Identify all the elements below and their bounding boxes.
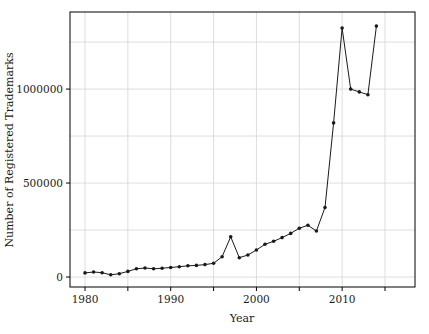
data-point [340,26,344,30]
data-point [160,266,164,270]
data-point [272,240,276,244]
data-point [152,267,156,271]
x-tick-label: 1990 [157,293,184,305]
y-tick-label: 500000 [23,177,63,189]
data-point [92,270,96,274]
data-point [100,271,104,275]
trademark-series [83,24,378,276]
data-point [246,253,250,257]
y-axis-label: Number of Registered Trademarks [3,52,16,247]
x-tick-label: 2010 [329,293,356,305]
data-point [315,229,319,233]
data-point [220,255,224,259]
data-point [169,266,173,270]
x-tick-label: 1980 [72,293,99,305]
data-point [212,262,216,266]
plot-frame [70,12,415,287]
data-point [306,224,310,228]
data-point [229,235,233,239]
x-axis-label: Year [229,312,255,325]
x-tick-label: 2000 [243,293,270,305]
data-point [298,226,302,230]
chart-page: 198019902000201005000001000000 Year Numb… [0,0,429,334]
data-point [178,265,182,269]
data-point [203,263,207,267]
grid-layer [70,12,415,287]
data-point [366,93,370,97]
data-point [358,90,362,94]
data-point [126,270,130,274]
ticks-layer: 198019902000201005000001000000 [16,83,385,305]
chart-canvas: 198019902000201005000001000000 Year Numb… [0,0,429,334]
data-point [289,232,293,236]
data-point [263,243,267,247]
data-point [109,273,113,277]
data-point [83,271,87,275]
data-point [255,248,259,252]
data-point [280,236,284,240]
data-point [349,87,353,91]
data-point [135,267,139,271]
data-point [332,121,336,125]
data-point [238,256,242,260]
y-tick-label: 0 [56,271,63,283]
data-point [143,266,147,270]
data-point [118,272,122,276]
data-point [186,264,190,268]
y-tick-label: 1000000 [16,83,63,95]
data-point [195,264,199,268]
data-point [323,206,327,210]
data-point [375,24,379,28]
